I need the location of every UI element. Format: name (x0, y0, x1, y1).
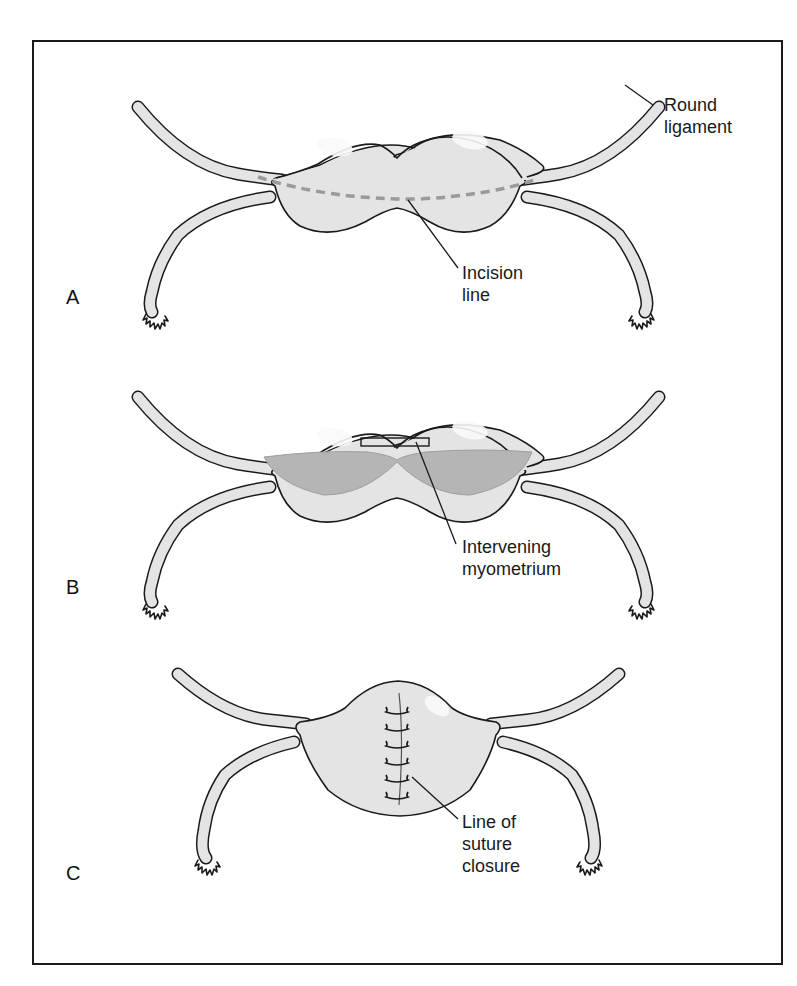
panel-c-drawing (178, 674, 619, 875)
uterus-surgery-diagram (0, 0, 797, 986)
panel-a-drawing (138, 85, 659, 329)
label-suture-closure: Line of suture closure (462, 811, 520, 877)
label-round-ligament: Round ligament (664, 94, 732, 138)
panel-letter-c: C (66, 862, 80, 885)
panel-letter-b: B (66, 576, 79, 599)
leader-round-ligament (625, 85, 653, 105)
panel-b-drawing (138, 397, 659, 619)
panel-letter-a: A (66, 286, 79, 309)
label-incision-line: Incision line (462, 262, 523, 306)
label-intervening-myometrium: Intervening myometrium (462, 536, 561, 580)
